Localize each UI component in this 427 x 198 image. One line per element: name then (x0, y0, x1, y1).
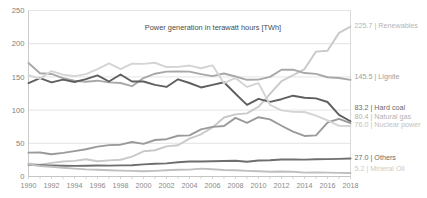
x-tick-label: 2016 (320, 181, 336, 190)
y-tick-label: 50 (16, 139, 24, 148)
chart-title: Power generation in terawatt hours [TWh] (145, 23, 281, 32)
x-tick-label: 1990 (21, 181, 37, 190)
x-tick-label: 2006 (205, 181, 221, 190)
series-end-label-hard-coal: 83.2 | Hard coal (355, 103, 406, 112)
x-tick-label: 1994 (67, 181, 83, 190)
y-tick-label: 250 (12, 6, 25, 15)
y-axis-tick-labels: 050100150200250 (12, 6, 25, 181)
series-line-renewables (29, 27, 351, 165)
x-tick-label: 2002 (159, 181, 175, 190)
y-tick-label: 200 (12, 39, 25, 48)
series-end-label-renewables: 225.7 | Renewables (355, 21, 419, 30)
x-tick-label: 1992 (44, 181, 60, 190)
x-tick-label: 2000 (136, 181, 152, 190)
x-tick-label: 2014 (297, 181, 313, 190)
series-end-label-others: 27.0 | Others (355, 153, 397, 162)
series-end-labels: 225.7 | Renewables145.5 | Lignite83.2 | … (355, 21, 422, 173)
series-line-natural-gas (29, 117, 351, 154)
x-tick-label: 1998 (113, 181, 129, 190)
series-end-label-lignite: 145.5 | Lignite (355, 72, 400, 81)
series-end-label-mineral-oil: 5.2 | Mineral Oil (355, 164, 406, 173)
x-tick-label: 2010 (251, 181, 267, 190)
x-tick-label: 1996 (90, 181, 106, 190)
series-end-label-nuclear-power: 76.0 | Nuclear power (355, 120, 422, 129)
x-tick-label: 2008 (228, 181, 244, 190)
line-chart: 050100150200250 199019921994199619982000… (0, 0, 427, 198)
series-line-hard-coal (29, 75, 351, 122)
y-tick-label: 100 (12, 106, 25, 115)
x-tick-label: 2012 (274, 181, 290, 190)
x-tick-label: 2018 (343, 181, 359, 190)
series-lines (29, 27, 351, 173)
chart-container: 050100150200250 199019921994199619982000… (0, 0, 427, 198)
x-tick-label: 2004 (182, 181, 198, 190)
x-axis-tick-labels: 1990199219941996199820002002200420062008… (21, 181, 359, 190)
y-tick-label: 150 (12, 73, 25, 82)
